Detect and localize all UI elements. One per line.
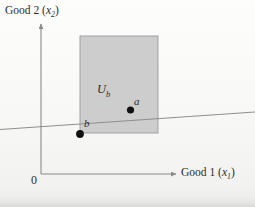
preferred-set-region <box>80 36 158 133</box>
preferred-set-label-var: U <box>97 82 106 96</box>
preferred-set-label-sub: b <box>106 89 110 99</box>
origin-label: 0 <box>31 174 37 186</box>
point-a-marker <box>127 106 134 113</box>
point-a-label: a <box>134 96 140 107</box>
point-b-label: b <box>84 118 90 129</box>
y-axis-label-close: ) <box>55 4 59 16</box>
y-axis-label: Good 2 (x2) <box>5 5 59 19</box>
point-b-marker <box>76 130 84 138</box>
x-axis-label-close: ) <box>231 166 235 178</box>
x-axis-label-text: Good 1 ( <box>181 166 222 178</box>
figure-canvas: Good 2 (x2) Good 1 (x1) 0 Ub a b <box>0 0 255 207</box>
y-axis-label-text: Good 2 ( <box>5 4 46 16</box>
preferred-set-label: Ub <box>97 83 110 98</box>
x-axis-label: Good 1 (x1) <box>181 167 235 181</box>
